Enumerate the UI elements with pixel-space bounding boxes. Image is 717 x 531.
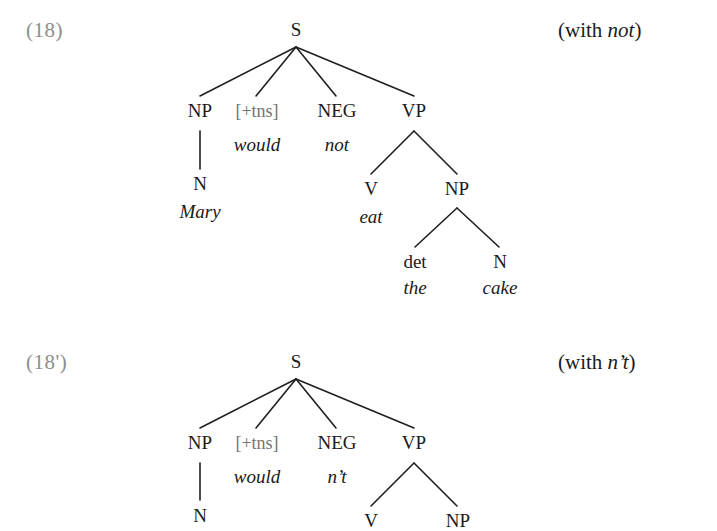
branch-s-vp	[296, 379, 414, 428]
node-n-subject: N	[193, 174, 207, 193]
word-would: would	[234, 467, 280, 486]
node-np-object: NP	[446, 511, 470, 530]
word-would: would	[234, 135, 280, 154]
node-s: S	[291, 352, 302, 371]
tree-branches	[0, 0, 717, 320]
example-number: (18)	[26, 18, 63, 43]
branch-s-np	[200, 47, 296, 96]
branch-vp-np	[414, 463, 457, 506]
gloss-suffix: )	[634, 18, 641, 42]
gloss-italic-word: n’t	[608, 350, 629, 374]
node-neg: NEG	[317, 101, 356, 120]
node-v: V	[364, 179, 378, 198]
branch-s-neg	[296, 379, 336, 428]
node-np-subject: NP	[188, 433, 212, 452]
node-s: S	[291, 20, 302, 39]
word-the: the	[403, 278, 426, 297]
branch-s-tns	[256, 379, 296, 428]
branch-vp-np	[414, 131, 457, 174]
branch-np-det	[415, 208, 457, 247]
gloss-suffix: )	[629, 350, 636, 374]
node-vp: VP	[402, 433, 426, 452]
node-np-object: NP	[445, 179, 469, 198]
word-nt: n’t	[328, 467, 347, 486]
word-cake: cake	[483, 278, 518, 297]
branch-vp-v	[371, 131, 414, 174]
gloss-prefix: (with	[558, 18, 608, 42]
figure-example-18: (18) (with not) S NP [+tns] NEG VP would…	[0, 0, 717, 320]
word-eat: eat	[359, 207, 382, 226]
branch-s-neg	[296, 47, 336, 96]
example-number: (18')	[26, 350, 67, 375]
branch-np-nobj	[457, 208, 499, 247]
node-vp: VP	[402, 101, 426, 120]
word-mary: Mary	[179, 202, 220, 221]
example-gloss: (with not)	[558, 18, 641, 43]
gloss-italic-word: not	[608, 18, 635, 42]
node-neg: NEG	[317, 433, 356, 452]
branch-s-tns	[256, 47, 296, 96]
branch-s-vp	[296, 47, 414, 96]
word-not: not	[325, 135, 349, 154]
example-gloss: (with n’t)	[558, 350, 636, 375]
node-np-subject: NP	[188, 101, 212, 120]
gloss-prefix: (with	[558, 350, 608, 374]
node-det: det	[403, 252, 426, 271]
node-tns-feature: [+tns]	[235, 434, 278, 452]
branch-s-np	[200, 379, 296, 428]
node-v: V	[364, 511, 378, 530]
node-n-object: N	[493, 252, 507, 271]
node-tns-feature: [+tns]	[235, 102, 278, 120]
branch-vp-v	[371, 463, 414, 506]
figure-example-18-prime: (18') (with n’t) S NP [+tns] NEG VP woul…	[0, 328, 717, 513]
node-n-subject: N	[193, 506, 207, 525]
